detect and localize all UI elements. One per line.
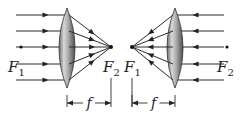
refracted-ray-arrow-icon xyxy=(147,44,153,49)
dimension-arrow-icon xyxy=(169,100,175,105)
lens-diagram-svg: F1 F2 f F1 F2 f xyxy=(0,0,248,123)
refracted-ray-arrow-icon xyxy=(88,29,94,35)
ray-arrow-icon xyxy=(43,61,49,66)
left-focal-length-label: f xyxy=(85,95,94,111)
lens-diagram: F1 F2 f F1 F2 f xyxy=(0,0,248,123)
right-label-F2: F2 xyxy=(216,58,234,78)
ray-arrow-icon xyxy=(193,44,199,49)
ray-arrow-icon xyxy=(43,12,49,17)
right-label-F1: F1 xyxy=(123,58,141,78)
dimension-arrow-icon xyxy=(105,100,111,105)
left-label-F2: F2 xyxy=(102,58,120,78)
ray-arrow-icon xyxy=(43,28,49,33)
refracted-ray-arrow-icon xyxy=(148,36,155,41)
ray-arrow-icon xyxy=(193,61,199,66)
right-converging-lens xyxy=(167,8,183,88)
right-focal-length-label: f xyxy=(150,95,159,111)
right-near-focal-point-dot xyxy=(225,45,228,48)
left-focal-point-dot xyxy=(109,45,113,49)
ray-arrow-icon xyxy=(193,28,199,33)
ray-arrow-icon xyxy=(43,44,49,49)
dimension-arrow-icon xyxy=(132,100,138,105)
left-label-F1: F1 xyxy=(7,58,25,78)
left-panel: F1 F2 f xyxy=(7,8,120,111)
dimension-arrow-icon xyxy=(67,100,73,105)
right-focal-point-dot xyxy=(130,45,134,49)
ray-arrow-icon xyxy=(43,77,49,82)
ray-arrow-icon xyxy=(193,77,199,82)
right-panel: F1 F2 f xyxy=(123,8,234,111)
refracted-ray-arrow-icon xyxy=(148,29,154,35)
refracted-ray-arrow-icon xyxy=(88,53,95,58)
ray-arrow-icon xyxy=(193,12,199,17)
refracted-ray-arrow-icon xyxy=(88,60,94,66)
left-near-focal-point-dot xyxy=(19,45,22,48)
left-converging-lens xyxy=(59,8,75,88)
refracted-ray-arrow-icon xyxy=(88,36,95,41)
refracted-ray-arrow-icon xyxy=(89,44,95,49)
